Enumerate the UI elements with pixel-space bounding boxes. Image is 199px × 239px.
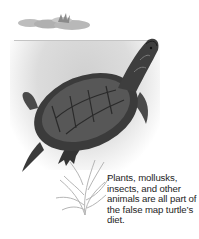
illustration-canvas: Plants, mollusks, insects, and other ani… xyxy=(0,0,199,239)
caption-text: Plants, mollusks, insects, and other ani… xyxy=(107,173,199,226)
turtle-icon xyxy=(22,39,159,172)
lily-pad-icon xyxy=(18,13,90,30)
aquatic-plant-icon xyxy=(56,160,110,215)
